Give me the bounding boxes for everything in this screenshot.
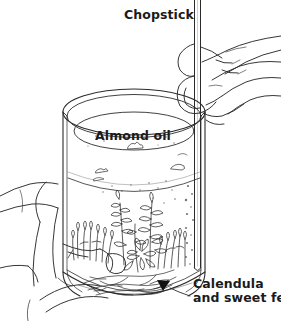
label-almond-oil: Almond oil [95,129,171,143]
illustration-herb-infused-oil [0,0,281,321]
label-calendula-line2: and sweet fern [193,291,281,305]
label-chopstick: Chopstick [124,8,194,22]
label-calendula-line1: Calendula [193,277,281,291]
label-calendula: Calendula and sweet fern [193,277,281,305]
